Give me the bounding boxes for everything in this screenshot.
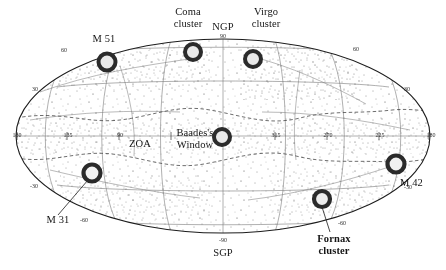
label-fornax-cluster: Fornax cluster: [302, 233, 366, 256]
tick-lat-60-right: 60: [348, 46, 364, 53]
label-fornax-line2: cluster: [318, 245, 349, 256]
label-virgo-line1: Virgo: [254, 6, 278, 17]
tick-lat-90: 90: [211, 33, 235, 40]
tick-lon-90: 90: [111, 132, 129, 139]
marker-coma-cluster[interactable]: [185, 44, 201, 60]
tick-lat-30-left: 30: [27, 86, 43, 93]
marker-m42[interactable]: [388, 156, 405, 173]
label-baades-window: Baades's Window: [163, 127, 227, 150]
label-m51: M 51: [79, 33, 129, 45]
tick-lat-neg60-right: -60: [332, 220, 352, 227]
sky-map-figure: M 51 Coma cluster NGP 90 Virgo cluster Z…: [0, 0, 446, 270]
marker-m51[interactable]: [99, 54, 116, 71]
label-fornax-line1: Fornax: [317, 233, 350, 244]
label-baades-line2: Window: [177, 139, 213, 150]
tick-lon-270: 270: [318, 132, 338, 139]
tick-lat-neg30-right: -30: [398, 184, 418, 191]
marker-m31[interactable]: [84, 165, 101, 182]
tick-lon-180-left: 180: [7, 132, 27, 139]
tick-lat-60-left: 60: [56, 47, 72, 54]
tick-lon-225: 225: [370, 132, 390, 139]
label-baades-line1: Baades's: [176, 127, 213, 138]
tick-lon-180-right: 180: [421, 132, 441, 139]
tick-lon-315: 315: [266, 132, 286, 139]
label-coma-line1: Coma: [175, 6, 200, 17]
tick-lat-neg90: -90: [210, 237, 236, 244]
tick-lat-neg60-left: -60: [74, 217, 94, 224]
label-virgo-line2: cluster: [252, 18, 281, 29]
label-virgo-cluster: Virgo cluster: [236, 6, 296, 29]
tick-lat-neg30-left: -30: [24, 183, 44, 190]
marker-fornax-cluster[interactable]: [314, 191, 330, 207]
label-sgp: SGP: [199, 247, 247, 259]
tick-lat-30-right: 30: [399, 86, 415, 93]
label-zoa: ZOA: [117, 138, 163, 150]
marker-virgo-cluster[interactable]: [245, 51, 261, 67]
tick-lon-135: 135: [58, 132, 78, 139]
